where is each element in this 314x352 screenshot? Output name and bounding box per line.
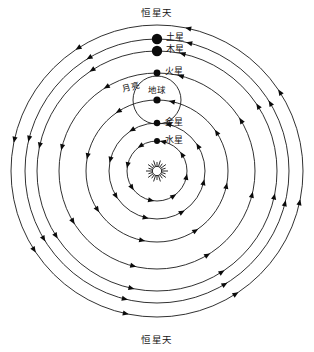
sun-ray [160, 175, 163, 179]
sun-ray [152, 164, 155, 168]
orbit-direction-arrow [128, 126, 136, 134]
orbit-direction-arrow [192, 227, 200, 235]
sun-ray [152, 175, 155, 179]
orbit-direction-arrow [186, 40, 193, 47]
orbit-direction-arrow [168, 98, 175, 104]
orbit-direction-arrow [122, 310, 129, 316]
orbit-direction-arrow [194, 142, 202, 150]
orbit-direction-arrow [112, 192, 120, 200]
planet-label-木星: 木星 [166, 43, 185, 54]
orbit-direction-arrow [128, 285, 135, 291]
planet-dot-土星 [152, 34, 162, 44]
orbit-direction-arrow [88, 66, 96, 74]
orbit-direction-arrow [85, 54, 93, 62]
planet-dot-地球 [153, 96, 160, 103]
orbit-direction-arrow [139, 237, 146, 243]
planet-label-水星: 水星 [165, 134, 184, 145]
sun-group [146, 161, 168, 182]
orbit-direction-arrow [218, 268, 226, 276]
orbit-direction-arrow [276, 88, 284, 96]
orbit-direction-arrow [221, 280, 229, 288]
planet-label-土星: 土星 [166, 31, 185, 42]
sun-ray [158, 161, 160, 167]
orbit-direction-arrow [52, 232, 60, 240]
sun-ray [154, 161, 156, 167]
orbit-direction-arrow [11, 136, 17, 143]
orbit-direction-arrow [84, 153, 90, 160]
planet-label-火星: 火星 [165, 66, 184, 76]
sun-disc [152, 166, 161, 175]
orbit-direction-arrow [223, 182, 229, 189]
sun-ray [161, 168, 165, 169]
orbit-direction-arrow [30, 246, 38, 254]
diagram-canvas: 水星金星地球火星木星土星恒星天恒星天月亮 [0, 0, 314, 352]
planet-label-地球: 地球 [148, 85, 167, 95]
orbit-direction-arrow [94, 206, 102, 214]
sphere-label-top: 恒星天 [141, 7, 173, 18]
orbit-direction-arrow [59, 144, 66, 151]
orbit-direction-arrow [74, 44, 82, 52]
planet-label-金星: 金星 [165, 116, 184, 127]
orbit-direction-arrow [69, 218, 77, 226]
orbit-direction-arrow [254, 102, 262, 110]
orbit-direction-arrow [130, 263, 137, 270]
orbit-direction-arrow [296, 199, 302, 206]
orbit-direction-arrow [114, 108, 122, 116]
sun-ray [160, 164, 163, 168]
orbit-direction-arrow [237, 117, 245, 125]
heliocentric-diagram: 水星金星地球火星木星土星恒星天恒星天月亮 [0, 0, 314, 352]
orbit-direction-arrow [266, 99, 274, 107]
orbit-direction-arrow [103, 83, 111, 91]
orbit-direction-arrow [142, 214, 149, 221]
planet-dot-木星 [152, 46, 162, 56]
orbit-direction-arrow [271, 193, 277, 200]
sun-ray [154, 175, 156, 181]
planet-dot-水星 [154, 138, 160, 144]
orbit-direction-arrow [213, 128, 221, 136]
sun-ray [148, 172, 152, 173]
sphere-label-bottom: 恒星天 [141, 334, 173, 345]
orbit-direction-arrow [249, 191, 256, 198]
orbit-direction-arrow [37, 142, 43, 149]
planet-dot-火星 [154, 70, 161, 77]
orbit-direction-arrow [178, 208, 186, 216]
orbit-direction-arrow [232, 290, 240, 298]
orbit-direction-arrow [121, 296, 128, 303]
labels-group: 水星金星地球火星木星土星恒星天恒星天月亮 [120, 7, 184, 345]
sun-ray [148, 168, 152, 169]
orbit-direction-arrow [40, 235, 48, 243]
orbit-direction-arrow [26, 135, 33, 142]
orbit-direction-arrow [282, 200, 289, 207]
orbit-direction-arrow [200, 179, 207, 186]
orbit-direction-arrow [185, 25, 192, 31]
planet-dot-金星 [154, 120, 160, 126]
sun-ray [158, 175, 160, 181]
orbit-direction-arrow [204, 251, 212, 259]
sun-ray [161, 172, 165, 173]
orbit-direction-arrow [107, 156, 114, 163]
moon-label: 月亮 [120, 80, 141, 95]
